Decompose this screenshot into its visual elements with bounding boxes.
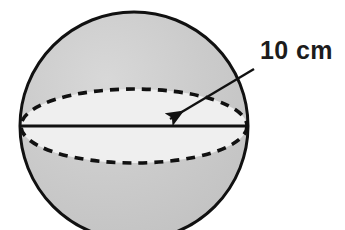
sphere-diagram-canvas [0,0,345,230]
sphere-figure: 10 cm [0,0,345,230]
dimension-label-10cm: 10 cm [260,38,333,63]
